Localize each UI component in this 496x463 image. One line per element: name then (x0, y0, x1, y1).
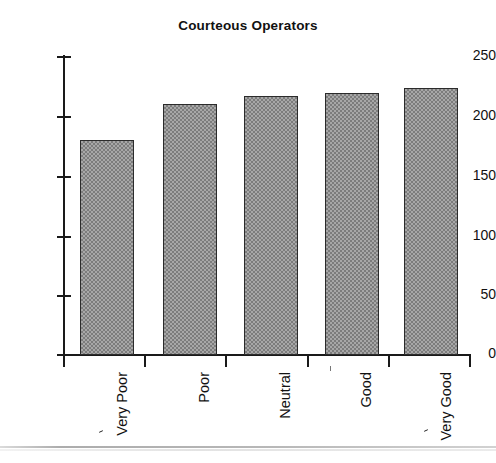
x-label-good: Good (358, 372, 374, 407)
scan-speck-left (99, 430, 103, 433)
bar-neutral (244, 96, 298, 355)
x-tick-1 (144, 354, 146, 367)
scan-speck-good-tick (330, 366, 331, 371)
x-tick-4 (388, 354, 390, 367)
y-tick-100 (57, 236, 71, 238)
scan-edge-line-secondary (0, 449, 496, 451)
scan-edge-line (0, 446, 496, 448)
bar-poor (163, 104, 217, 355)
bar-good (325, 93, 379, 355)
y-tick-200 (57, 116, 71, 118)
chart-title: Courteous Operators (0, 18, 496, 33)
y-tick-150 (57, 176, 71, 178)
x-label-neutral: Neutral (277, 372, 293, 419)
bar-very-good (404, 88, 458, 355)
x-label-very-good: Very Good (438, 372, 454, 441)
y-axis-line (63, 55, 65, 357)
x-tick-3 (307, 354, 309, 367)
x-label-poor-text: Poor (196, 372, 212, 403)
x-label-good-text: Good (358, 372, 374, 407)
x-tick-0 (63, 354, 65, 367)
y-tick-50 (57, 295, 71, 297)
x-label-neutral-text: Neutral (277, 372, 293, 419)
x-tick-2 (225, 354, 227, 367)
x-label-poor: Poor (196, 372, 212, 403)
x-label-very-poor-text: Very Poor (114, 372, 130, 436)
y-tick-250 (57, 56, 71, 58)
x-label-very-poor: Very Poor (114, 372, 130, 436)
x-label-very-good-text: Very Good (438, 372, 454, 441)
scan-speck-right (424, 429, 428, 432)
x-tick-5 (469, 354, 471, 367)
y-tick-label-250: 250 (450, 47, 496, 63)
bar-very-poor (80, 140, 134, 355)
bar-chart: Courteous Operators 250 200 150 100 50 0… (0, 0, 496, 463)
